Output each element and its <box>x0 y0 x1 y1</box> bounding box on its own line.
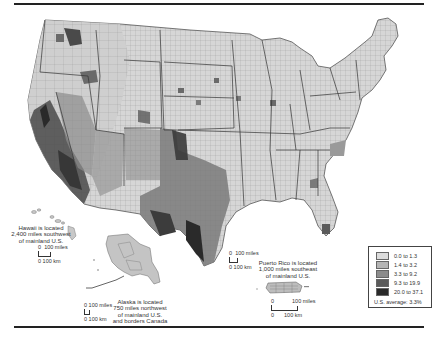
legend-label: 20.0 to 37.1 <box>394 289 423 295</box>
legend-row: 1.4 to 3.2 <box>376 260 431 269</box>
legend-row: 9.3 to 19.9 <box>376 278 431 287</box>
legend-row: 0.0 to 1.3 <box>376 251 431 260</box>
scale-zero: 0 <box>229 264 232 270</box>
legend-label: 3.3 to 9.2 <box>394 271 417 277</box>
scale-km: 100 km <box>234 264 252 270</box>
scale-zero: 0 <box>38 258 41 264</box>
scale-bar <box>84 309 90 315</box>
scale-bar <box>229 257 238 263</box>
alaska-note-line: and borders Canada <box>112 318 168 324</box>
scale-miles: 100 miles <box>89 302 113 308</box>
legend-swatch <box>376 270 389 278</box>
legend-swatch <box>376 279 389 287</box>
scale-km: 100 km <box>284 312 302 318</box>
scale-zero: 0 <box>229 250 232 256</box>
legend-label: 0.0 to 1.3 <box>394 253 417 259</box>
alaska-note-line: 750 miles northwest <box>112 305 168 311</box>
legend-swatch <box>376 288 389 296</box>
alaska-note: Alaska is located 750 miles northwest of… <box>112 299 168 325</box>
hawaii-note: Hawaii is located 2,400 miles southwest … <box>6 225 76 244</box>
map-legend: 0.0 to 1.3 1.4 to 3.2 3.3 to 9.2 9.3 to … <box>368 246 432 308</box>
mainland-scale: 0 100 miles 0 100 km <box>229 250 259 270</box>
scale-zero: 0 <box>271 298 274 304</box>
scale-zero: 0 <box>271 312 274 318</box>
bottom-rule <box>14 326 424 328</box>
legend-swatch <box>376 261 389 269</box>
scale-zero: 0 <box>84 316 87 322</box>
scale-zero: 0 <box>84 302 87 308</box>
scale-miles: 100 miles <box>292 298 316 304</box>
scale-miles: 100 miles <box>235 250 259 256</box>
alaska-scale: 0 100 miles 0 100 km <box>84 302 112 322</box>
legend-label: 1.4 to 3.2 <box>394 262 417 268</box>
legend-swatch <box>376 252 389 260</box>
scale-zero: 0 <box>38 244 41 250</box>
puerto-rico-note: Puerto Rico is located 1,000 miles south… <box>258 260 318 279</box>
scale-bar <box>271 305 298 311</box>
alaska-inset <box>86 234 160 288</box>
scale-miles: 100 miles <box>44 244 68 250</box>
scale-km: 100 km <box>43 258 61 264</box>
puerto-rico-inset <box>256 282 309 293</box>
hawaii-note-line: 2,400 miles southwest <box>6 231 76 237</box>
puerto-rico-scale: 0100 miles 0100 km <box>271 298 316 318</box>
legend-row: 20.0 to 37.1 <box>376 287 431 296</box>
hawaii-scale: 0 100 miles 0 100 km <box>38 244 68 264</box>
scale-bar <box>38 251 51 257</box>
scale-km: 100 km <box>89 316 107 322</box>
legend-average: U.S. average: 3.3% <box>374 299 431 305</box>
puerto-rico-note-line: 1,000 miles southeast <box>258 266 318 272</box>
legend-label: 9.3 to 19.9 <box>394 280 420 286</box>
legend-row: 3.3 to 9.2 <box>376 269 431 278</box>
mainland-us <box>28 18 398 266</box>
puerto-rico-note-line: of mainland U.S. <box>258 273 318 279</box>
